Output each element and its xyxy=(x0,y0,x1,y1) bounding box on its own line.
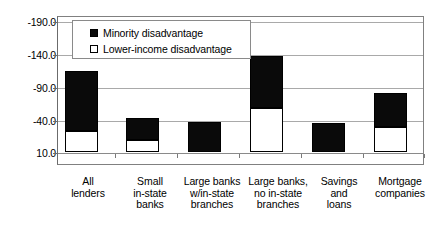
bar-segment-lower-income xyxy=(374,127,407,152)
bar-segment-minority xyxy=(188,122,221,152)
legend-swatch-hollow-icon xyxy=(90,45,98,53)
bar-segment-minority xyxy=(126,118,159,140)
x-tick-mark xyxy=(301,154,302,158)
x-axis-label-small-in-state-banks: Small in-state banks xyxy=(119,176,181,211)
y-tick-mark xyxy=(53,22,58,23)
bar-segment-lower-income xyxy=(126,140,159,152)
bar-large-banks-with-in-state-branches xyxy=(188,122,221,152)
y-axis-tick-label: -140.0 xyxy=(0,49,56,61)
y-axis-tick-label: -40.0 xyxy=(0,115,56,127)
x-axis-label-savings-and-loans: Savings and loans xyxy=(310,176,368,211)
y-axis-tick-label: -90.0 xyxy=(0,82,56,94)
y-tick-mark xyxy=(53,55,58,56)
gridline xyxy=(58,121,423,122)
y-tick-mark xyxy=(53,153,58,154)
gridline xyxy=(58,88,423,89)
bar-small-in-state-banks xyxy=(126,118,159,152)
x-tick-mark xyxy=(363,154,364,158)
bar-segment-minority xyxy=(250,56,283,108)
y-tick-mark xyxy=(53,88,58,89)
bar-segment-minority xyxy=(312,123,345,152)
bar-large-banks-no-in-state-branches xyxy=(250,56,283,152)
y-axis-tick-label: 10.0 xyxy=(0,147,56,159)
axis-baseline xyxy=(58,153,423,154)
x-axis-label-large-banks-no-in-state-branches: Large banks, no in-state branches xyxy=(243,176,313,211)
x-tick-mark xyxy=(424,154,425,158)
legend-label: Minority disadvantage xyxy=(103,27,203,39)
bar-segment-lower-income xyxy=(65,131,98,152)
x-axis-label-mortgage-companies: Mortgage companies xyxy=(366,176,434,199)
bar-segment-lower-income xyxy=(250,108,283,152)
x-axis-label-large-banks-with-in-state-branches: Large banks w/in-state branches xyxy=(178,176,246,211)
legend-item-lower-income: Lower-income disadvantage xyxy=(90,41,250,56)
x-tick-mark xyxy=(239,154,240,158)
x-axis-label-all-lenders: All lenders xyxy=(57,176,119,199)
bar-segment-minority xyxy=(374,93,407,127)
chart-legend: Minority disadvantage Lower-income disad… xyxy=(72,20,251,59)
x-tick-mark xyxy=(177,154,178,158)
bar-savings-and-loans xyxy=(312,123,345,152)
legend-label: Lower-income disadvantage xyxy=(103,43,232,55)
x-tick-mark xyxy=(115,154,116,158)
bar-all-lenders xyxy=(65,71,98,152)
bar-chart: -190.0 -140.0 -90.0 -40.0 10.0 xyxy=(0,0,435,232)
bar-segment-minority xyxy=(65,71,98,131)
y-tick-mark xyxy=(53,121,58,122)
y-axis-tick-label: -190.0 xyxy=(0,16,56,28)
legend-item-minority: Minority disadvantage xyxy=(90,25,250,40)
legend-swatch-filled-icon xyxy=(90,29,98,37)
bar-mortgage-companies xyxy=(374,93,407,152)
